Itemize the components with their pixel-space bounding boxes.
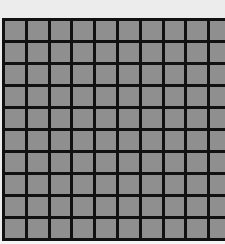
grid-cell[interactable] bbox=[96, 87, 116, 106]
grid-cell[interactable] bbox=[5, 131, 25, 150]
grid-cell[interactable] bbox=[5, 219, 25, 238]
grid-cell[interactable] bbox=[142, 43, 162, 62]
grid-cell[interactable] bbox=[51, 43, 71, 62]
grid-cell[interactable] bbox=[73, 219, 93, 238]
grid-cell[interactable] bbox=[165, 153, 185, 172]
grid-cell[interactable] bbox=[96, 197, 116, 216]
grid-cell[interactable] bbox=[165, 87, 185, 106]
grid-cell[interactable] bbox=[142, 109, 162, 128]
grid-cell[interactable] bbox=[210, 219, 225, 238]
grid-cell[interactable] bbox=[73, 87, 93, 106]
grid-cell[interactable] bbox=[51, 21, 71, 40]
grid-cell[interactable] bbox=[5, 197, 25, 216]
grid-cell[interactable] bbox=[187, 197, 207, 216]
grid-cell[interactable] bbox=[142, 197, 162, 216]
grid-cell[interactable] bbox=[51, 65, 71, 84]
grid-cell[interactable] bbox=[210, 43, 225, 62]
grid-cell[interactable] bbox=[96, 131, 116, 150]
grid-cell[interactable] bbox=[165, 109, 185, 128]
grid-cell[interactable] bbox=[51, 87, 71, 106]
grid-cell[interactable] bbox=[165, 197, 185, 216]
grid-cell[interactable] bbox=[51, 131, 71, 150]
grid-cell[interactable] bbox=[51, 219, 71, 238]
grid-cell[interactable] bbox=[73, 131, 93, 150]
grid-cell[interactable] bbox=[119, 65, 139, 84]
grid-cell[interactable] bbox=[119, 153, 139, 172]
grid-cell[interactable] bbox=[210, 109, 225, 128]
grid-cell[interactable] bbox=[73, 175, 93, 194]
grid-cell[interactable] bbox=[51, 175, 71, 194]
grid-cell[interactable] bbox=[165, 131, 185, 150]
grid-cell[interactable] bbox=[28, 21, 48, 40]
grid-cell[interactable] bbox=[51, 197, 71, 216]
grid-cell[interactable] bbox=[187, 87, 207, 106]
grid-cell[interactable] bbox=[210, 153, 225, 172]
grid-cell[interactable] bbox=[142, 21, 162, 40]
grid-cell[interactable] bbox=[165, 43, 185, 62]
grid-cell[interactable] bbox=[187, 43, 207, 62]
grid-cell[interactable] bbox=[187, 131, 207, 150]
grid-cell[interactable] bbox=[210, 175, 225, 194]
grid-cell[interactable] bbox=[28, 197, 48, 216]
grid-cell[interactable] bbox=[96, 109, 116, 128]
grid-cell[interactable] bbox=[5, 175, 25, 194]
grid-cell[interactable] bbox=[96, 21, 116, 40]
grid-cell[interactable] bbox=[51, 153, 71, 172]
grid-cell[interactable] bbox=[119, 175, 139, 194]
grid-cell[interactable] bbox=[165, 65, 185, 84]
grid-cell[interactable] bbox=[96, 65, 116, 84]
grid-cell[interactable] bbox=[5, 43, 25, 62]
grid-cell[interactable] bbox=[28, 43, 48, 62]
grid-cell[interactable] bbox=[187, 219, 207, 238]
grid-cell[interactable] bbox=[5, 153, 25, 172]
grid-cell[interactable] bbox=[119, 87, 139, 106]
grid-cell[interactable] bbox=[96, 175, 116, 194]
grid-cell[interactable] bbox=[28, 131, 48, 150]
grid-cell[interactable] bbox=[73, 65, 93, 84]
grid-cell[interactable] bbox=[96, 219, 116, 238]
grid-cell[interactable] bbox=[28, 87, 48, 106]
grid-cell[interactable] bbox=[119, 131, 139, 150]
grid-cell[interactable] bbox=[5, 21, 25, 40]
grid-cell[interactable] bbox=[119, 43, 139, 62]
grid-cell[interactable] bbox=[187, 65, 207, 84]
grid-cell[interactable] bbox=[210, 87, 225, 106]
grid-cell[interactable] bbox=[187, 21, 207, 40]
grid-cell[interactable] bbox=[187, 153, 207, 172]
grid-cell[interactable] bbox=[73, 197, 93, 216]
grid-cell[interactable] bbox=[51, 109, 71, 128]
grid-cell[interactable] bbox=[165, 21, 185, 40]
grid-cell[interactable] bbox=[28, 153, 48, 172]
grid-cell[interactable] bbox=[210, 21, 225, 40]
grid-cell[interactable] bbox=[210, 65, 225, 84]
grid-cell[interactable] bbox=[165, 175, 185, 194]
grid-cell[interactable] bbox=[73, 43, 93, 62]
grid-cell[interactable] bbox=[119, 109, 139, 128]
grid-cell[interactable] bbox=[142, 65, 162, 84]
grid-cell[interactable] bbox=[119, 21, 139, 40]
grid-cell[interactable] bbox=[96, 153, 116, 172]
grid-cell[interactable] bbox=[165, 219, 185, 238]
grid-cell[interactable] bbox=[96, 43, 116, 62]
grid-cell[interactable] bbox=[28, 109, 48, 128]
grid-cell[interactable] bbox=[73, 153, 93, 172]
grid-cell[interactable] bbox=[5, 87, 25, 106]
grid-cell[interactable] bbox=[187, 175, 207, 194]
grid-cell[interactable] bbox=[28, 219, 48, 238]
grid-cell[interactable] bbox=[28, 65, 48, 84]
grid-cell[interactable] bbox=[73, 109, 93, 128]
grid-cell[interactable] bbox=[5, 109, 25, 128]
grid-cell[interactable] bbox=[5, 65, 25, 84]
grid-cell[interactable] bbox=[142, 175, 162, 194]
grid-cell[interactable] bbox=[142, 87, 162, 106]
grid-cell[interactable] bbox=[210, 131, 225, 150]
grid-cell[interactable] bbox=[142, 153, 162, 172]
grid-cell[interactable] bbox=[142, 131, 162, 150]
grid-cell[interactable] bbox=[210, 197, 225, 216]
grid-cell[interactable] bbox=[28, 175, 48, 194]
grid-cell[interactable] bbox=[119, 219, 139, 238]
grid-cell[interactable] bbox=[187, 109, 207, 128]
grid-cell[interactable] bbox=[73, 21, 93, 40]
grid-cell[interactable] bbox=[119, 197, 139, 216]
grid-cell[interactable] bbox=[142, 219, 162, 238]
